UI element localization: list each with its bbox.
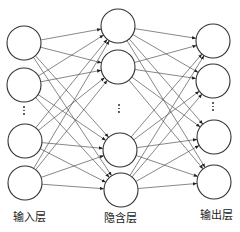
connection-edge bbox=[138, 183, 197, 188]
input-neuron bbox=[8, 166, 42, 200]
connection-edge bbox=[132, 94, 202, 177]
connection-edge bbox=[34, 41, 110, 169]
connection-edge bbox=[134, 91, 200, 140]
connection-edge bbox=[129, 80, 203, 169]
input-neuron bbox=[7, 26, 41, 60]
output-neuron bbox=[196, 64, 230, 98]
connection-edge bbox=[135, 69, 196, 78]
output-neuron bbox=[197, 165, 231, 199]
hidden-neuron bbox=[103, 133, 137, 167]
connection-edge bbox=[133, 35, 199, 73]
input-layer-label: 输入层 bbox=[13, 208, 46, 224]
hidden-neuron bbox=[101, 9, 135, 43]
input-neuron bbox=[8, 124, 42, 158]
output-layer-label: 输出层 bbox=[200, 206, 233, 222]
connection-edge bbox=[130, 55, 204, 175]
network-graphic bbox=[0, 0, 240, 232]
connection-edge bbox=[135, 29, 196, 39]
connection-edge bbox=[137, 139, 197, 147]
connection-edge bbox=[134, 45, 196, 62]
connection-edge bbox=[40, 47, 101, 63]
connection-edge bbox=[40, 149, 106, 183]
hidden-neuron bbox=[101, 50, 135, 84]
input-neuron bbox=[7, 68, 41, 102]
connection-edge bbox=[129, 39, 203, 124]
hidden-layer-label: 隐含层 bbox=[104, 209, 137, 225]
output-neuron bbox=[197, 120, 231, 154]
output-ellipsis bbox=[212, 102, 214, 111]
connection-edge bbox=[36, 80, 108, 169]
input-ellipsis bbox=[23, 106, 25, 115]
connection-edge bbox=[42, 184, 104, 189]
connection-edge bbox=[38, 95, 106, 141]
connection-edge bbox=[132, 77, 201, 127]
neural-network-diagram: 输入层 隐含层 输出层 bbox=[0, 0, 240, 232]
connection-edge bbox=[41, 29, 102, 40]
connection-edge bbox=[42, 143, 103, 149]
connection-edge bbox=[35, 56, 108, 138]
hidden-neuron bbox=[104, 173, 138, 207]
hidden-ellipsis bbox=[118, 104, 120, 113]
output-neuron bbox=[196, 24, 230, 58]
connection-edge bbox=[41, 156, 104, 178]
connection-edge bbox=[136, 155, 198, 176]
